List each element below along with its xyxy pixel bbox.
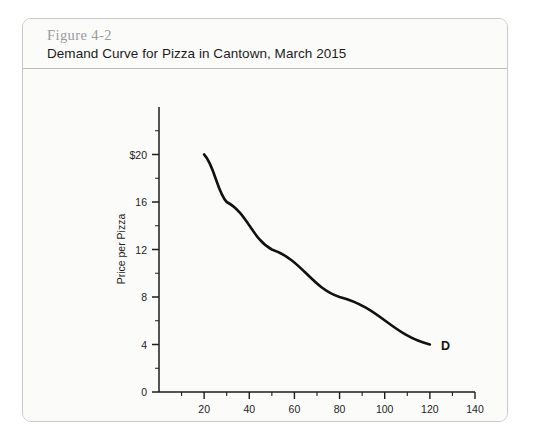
y-tick-label: $20 [129,149,147,161]
demand-curve-series [204,155,430,345]
y-tick-label: 12 [135,244,147,256]
x-tick-label: 20 [198,403,210,415]
x-axis-title: Quantity (thousands per week) [246,419,389,422]
x-axis: 20406080100120140 Quantity (thousands pe… [159,392,484,422]
y-axis-title: Price per Pizza [115,214,127,285]
x-tick-label: 100 [376,403,394,415]
y-tick-label: 0 [141,386,147,398]
figure-title: Demand Curve for Pizza in Cantown, March… [47,45,507,63]
curve-annotations: D [441,339,450,353]
y-axis: 0481216$20 Price per Pizza [115,107,159,398]
x-tick-label: 120 [421,403,439,415]
x-tick-label: 140 [466,403,484,415]
figure-number: Figure 4-2 [47,27,507,44]
demand-curve-line [204,155,430,345]
y-tick-label: 16 [135,196,147,208]
chart-plot-area: 0481216$20 Price per Pizza 2040608010012… [23,69,508,422]
demand-curve-chart: 0481216$20 Price per Pizza 2040608010012… [23,69,508,422]
y-axis-tick-labels: 0481216$20 [129,149,147,399]
x-tick-label: 60 [289,403,301,415]
y-tick-label: 8 [141,291,147,303]
x-axis-tick-labels: 20406080100120140 [198,403,484,415]
figure-header: Figure 4-2 Demand Curve for Pizza in Can… [23,19,507,69]
x-axis-major-ticks [204,392,475,399]
x-tick-label: 80 [334,403,346,415]
figure-page: Figure 4-2 Demand Curve for Pizza in Can… [0,0,536,448]
demand-curve-label: D [441,339,450,353]
figure-card: Figure 4-2 Demand Curve for Pizza in Can… [22,18,508,422]
x-tick-label: 40 [243,403,255,415]
y-tick-label: 4 [141,339,147,351]
